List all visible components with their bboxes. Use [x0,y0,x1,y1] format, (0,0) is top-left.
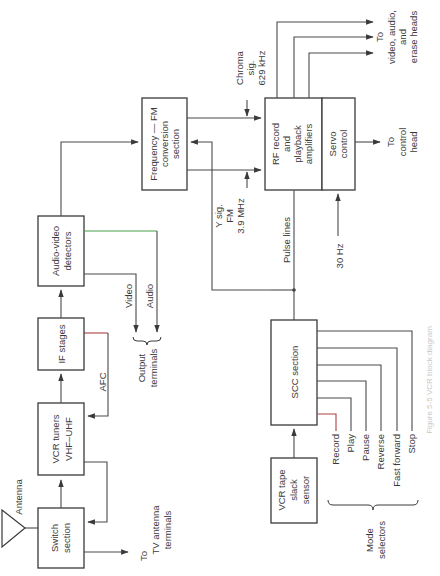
mode-selectors-brace [328,500,418,510]
switch-label-1: Switch [49,524,60,552]
tape-slack-sensor-block: VCR tape slack sensor [271,458,317,523]
to-heads-label: To video, audio, and erase heads [374,10,419,64]
pulse-lines-label: Pulse lines [281,217,292,263]
to-video-head-wire [277,22,373,98]
mode-record: Record [330,434,341,465]
svg-text:selectors: selectors [376,521,387,559]
servo-label-2: control [338,130,349,159]
vcr-block-diagram: Antenna Switch section To TV antenna ter… [0,0,440,576]
servo-label-1: Servo [327,132,338,157]
frequency-fm-conversion-block: Frequency — FM conversion section [142,98,187,190]
svg-text:To: To [374,32,385,42]
detectors-label-2: detectors [62,231,73,270]
svg-text:Chroma: Chroma [234,50,245,85]
svg-text:629 kHz: 629 kHz [256,50,267,85]
svg-text:head: head [408,131,419,152]
audio-label: Audio [144,284,155,308]
mode-selectors-title: Mode selectors [364,521,387,559]
svg-text:terminals: terminals [162,510,173,549]
rf-record-playback-block: RF record and playback amplifiers [265,98,322,190]
detectors-label-1: Audio-video [50,226,61,276]
rf-label-2: and [281,136,292,152]
svg-text:terminals: terminals [148,348,159,387]
to-audio-head-wire [294,37,373,98]
vcr-tuners-block: VCR tuners VHF–UHF [38,403,84,475]
to-control-head-label: To control head [385,128,419,157]
30hz-label: 30 Hz [334,243,345,268]
output-terminals-label: Output terminals [136,348,159,387]
mode-reverse: Reverse [375,434,386,469]
audio-video-detectors-block: Audio-video detectors [38,216,84,286]
svg-text:Output: Output [136,353,147,382]
mode-stop: Stop [406,434,417,454]
svg-text:Mode: Mode [364,528,375,552]
sensor-label-2: slack [288,479,299,501]
svg-text:Switch: Switch [49,524,60,552]
scc-label: SCC section [289,346,300,399]
svg-text:video, audio,: video, audio, [386,10,397,64]
tuners-label-2: VHF–UHF [63,417,74,461]
svg-text:section: section [61,523,72,553]
mode-record-wire [317,414,336,431]
svg-text:To: To [138,551,149,561]
freq-label-3: section [170,129,181,159]
output-brace [133,337,161,345]
mode-fast-forward: Fast forward [391,434,402,487]
to-tv-label: To TV antenna terminals [138,505,173,561]
svg-text:control: control [397,128,408,157]
scc-section-block: SCC section [271,320,317,425]
svg-text:3.9 MHz: 3.9 MHz [235,198,246,234]
rf-label-1: RF record [270,123,281,165]
mode-pause-wire [317,381,366,431]
mode-selector-labels: Record Play Pause Reverse Fast forward S… [330,434,417,487]
mode-play: Play [345,434,356,453]
sensor-label-3: sensor [300,476,311,505]
rf-label-3: playback [292,125,303,163]
freq-label-2: conversion [159,121,170,167]
if-stages-label: IF stages [56,324,67,363]
mode-pause: Pause [360,434,371,461]
figure-caption: Figure 5-5 VCR block diagram [425,326,434,434]
antenna-label: Antenna [13,479,24,515]
switch-label-2: section [61,523,72,553]
svg-text:erase heads: erase heads [408,11,419,64]
svg-text:sig.: sig. [245,61,256,76]
afc-label: AFC [97,372,108,391]
svg-text:FM: FM [224,209,235,223]
video-label: Video [123,284,134,308]
freq-label-1: Frequency — FM [148,107,159,180]
svg-text:TV antenna: TV antenna [150,505,161,555]
to-erase-head-wire [309,53,373,98]
y-signal-label: Y sig. FM 3.9 MHz [213,198,246,234]
switch-section-block: Switch section [38,508,84,568]
sensor-label-1: VCR tape [276,469,287,510]
servo-control-block: Servo control [322,98,355,190]
svg-text:Y sig.: Y sig. [213,204,224,228]
tuners-label-1: VCR tuners [50,414,61,463]
rf-label-4: amplifiers [303,123,314,164]
svg-text:To: To [385,137,396,147]
if-stages-block: IF stages [38,318,84,370]
svg-text:and: and [397,29,408,45]
mode-fast-forward-wire [317,348,397,431]
chroma-label: Chroma sig. 629 kHz [234,50,267,85]
